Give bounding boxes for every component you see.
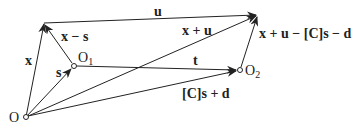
vector-x xyxy=(26,24,44,117)
point-O-label: O xyxy=(9,110,19,125)
point-O2-label: O2 xyxy=(245,63,260,80)
label-x: x xyxy=(25,53,32,68)
vector-x-plus-u-minus-Cs-minus-d xyxy=(241,17,257,67)
label-t: t xyxy=(193,53,198,68)
point-O2-marker xyxy=(238,68,243,73)
vector-diagram: O O1 O2 x s x − s u x + u t [C]s + d x +… xyxy=(0,0,364,129)
point-O-marker xyxy=(24,115,29,120)
point-O1-label: O1 xyxy=(78,50,93,67)
label-x-plus-u: x + u xyxy=(182,23,212,38)
point-O1-marker xyxy=(72,64,77,69)
label-x-plus-u-minus-Cs-minus-d: x + u − [C]s − d xyxy=(259,26,352,41)
label-x-minus-s: x − s xyxy=(61,29,89,44)
vector-s xyxy=(26,69,71,117)
label-Cs-plus-d: [C]s + d xyxy=(182,86,230,101)
label-u: u xyxy=(154,4,162,19)
vector-t xyxy=(77,66,236,70)
vector-u xyxy=(44,15,256,23)
label-s: s xyxy=(56,65,62,80)
